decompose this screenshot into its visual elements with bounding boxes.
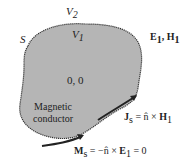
surface-s-label: S <box>20 34 26 45</box>
equivalence-diagram: V2 V1 S E1, H1 0, 0 Magneticconductor Js… <box>0 0 189 164</box>
js-equation: Js = n̂ × H1 <box>124 112 172 125</box>
ms-equation: Ms = −n̂ × E1 = 0 <box>74 146 147 159</box>
diagram-graphics <box>0 0 189 164</box>
exterior-fields-label: E1, H1 <box>150 32 179 45</box>
region-v1-label: V1 <box>72 29 84 43</box>
material-label: Magneticconductor <box>33 101 73 125</box>
interior-fields-label: 0, 0 <box>67 75 84 86</box>
region-v2-label: V2 <box>66 6 78 20</box>
